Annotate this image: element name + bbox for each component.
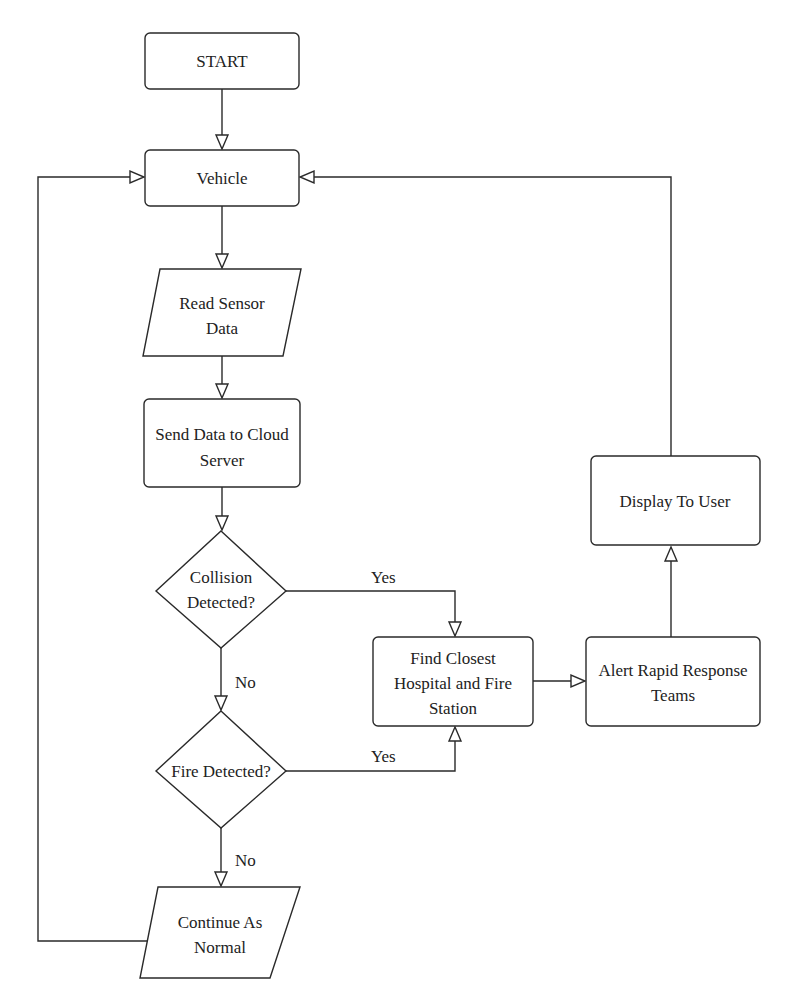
arrowhead-icon xyxy=(216,135,228,149)
node-label: Continue As xyxy=(178,913,263,932)
node-label: Vehicle xyxy=(197,169,248,188)
edge-display-vehicle xyxy=(314,177,671,456)
arrowhead-icon xyxy=(216,516,228,530)
arrowhead-icon xyxy=(130,171,144,183)
node-label: Hospital and Fire xyxy=(394,674,512,693)
decision-diamond xyxy=(156,531,286,648)
arrowhead-icon xyxy=(300,171,314,183)
node-label: START xyxy=(196,52,248,71)
io-parallelogram xyxy=(140,887,300,978)
edge-continue-vehicle xyxy=(38,177,152,941)
edge-label-fire-yes: Yes xyxy=(371,747,396,766)
arrowhead-icon xyxy=(449,727,461,741)
node-label: Fire Detected? xyxy=(171,762,271,781)
edges xyxy=(38,89,677,941)
node-alert[interactable]: Alert Rapid Response Teams xyxy=(586,637,760,726)
node-send-data[interactable]: Send Data to Cloud Server xyxy=(144,399,300,487)
node-fire-detected[interactable]: Fire Detected? xyxy=(156,711,286,828)
arrowhead-icon xyxy=(449,622,461,636)
arrowhead-icon xyxy=(215,872,227,886)
node-label: Normal xyxy=(194,938,246,957)
edge-label-collision-no: No xyxy=(235,673,256,692)
node-continue[interactable]: Continue As Normal xyxy=(140,887,300,978)
arrowhead-icon xyxy=(216,254,228,268)
node-label: Teams xyxy=(651,686,695,705)
node-label: Send Data to Cloud xyxy=(155,425,289,444)
process-box xyxy=(586,637,760,726)
node-label: Collision xyxy=(190,568,253,587)
arrowhead-icon xyxy=(216,384,228,398)
edge-label-collision-yes: Yes xyxy=(371,568,396,587)
edge-label-fire-no: No xyxy=(235,851,256,870)
node-read-sensor[interactable]: Read Sensor Data xyxy=(143,269,301,356)
edge-collision-yes xyxy=(286,591,455,623)
node-label: Data xyxy=(206,319,239,338)
node-label: Find Closest xyxy=(410,649,496,668)
node-collision-detected[interactable]: Collision Detected? xyxy=(156,531,286,648)
node-label: Alert Rapid Response xyxy=(598,661,747,680)
arrowhead-icon xyxy=(215,696,227,710)
node-label: Display To User xyxy=(620,492,731,511)
arrowhead-icon xyxy=(665,547,677,561)
node-start[interactable]: START xyxy=(145,33,299,89)
node-find-closest[interactable]: Find Closest Hospital and Fire Station xyxy=(373,637,533,726)
flowchart-canvas: START Vehicle Read Sensor Data Send Data… xyxy=(0,0,793,1005)
node-display[interactable]: Display To User xyxy=(591,456,760,545)
node-vehicle[interactable]: Vehicle xyxy=(145,150,299,206)
node-label: Server xyxy=(200,451,245,470)
node-label: Read Sensor xyxy=(179,294,265,313)
arrowhead-icon xyxy=(571,675,585,687)
node-label: Station xyxy=(429,699,478,718)
node-label: Detected? xyxy=(187,593,255,612)
